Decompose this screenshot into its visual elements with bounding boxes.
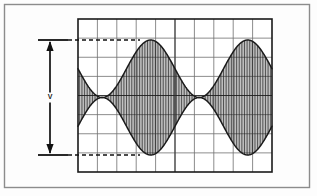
amplitude-label: V bbox=[48, 93, 53, 100]
oscilloscope-figure: V bbox=[0, 0, 317, 196]
waveform-diagram: V bbox=[0, 0, 317, 196]
